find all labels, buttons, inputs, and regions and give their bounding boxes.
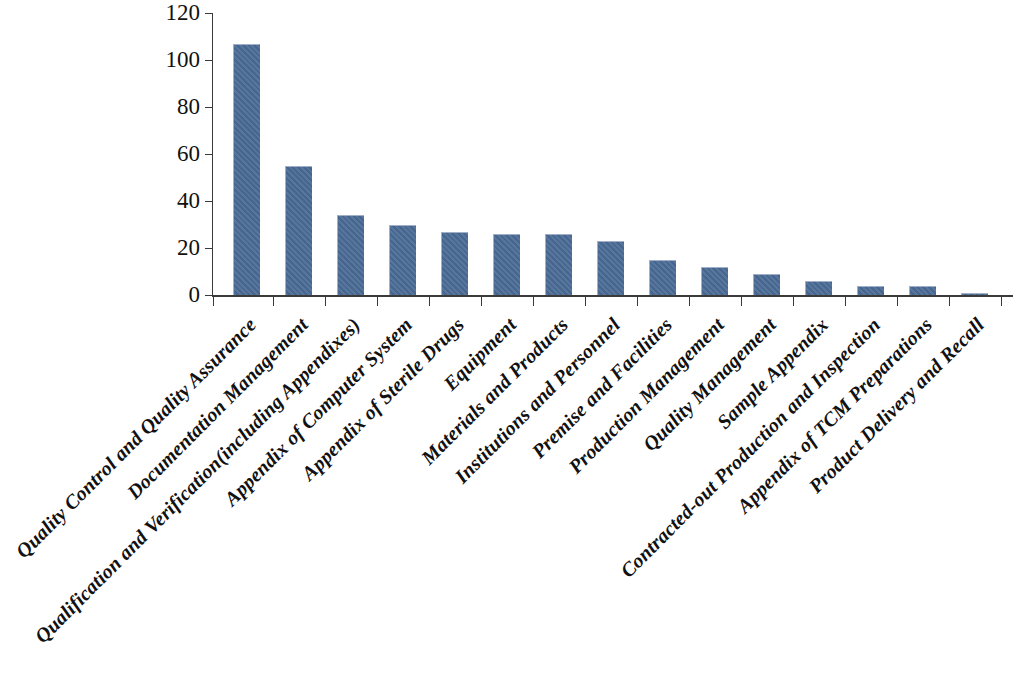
bar: [285, 166, 312, 295]
y-axis-tick: [205, 248, 213, 249]
y-axis-tick-label: 40: [120, 189, 200, 212]
bar: [389, 225, 416, 296]
bar: [753, 274, 780, 295]
x-axis-tick: [793, 297, 794, 306]
x-axis-tick: [845, 297, 846, 306]
bar: [857, 286, 884, 295]
bar: [649, 260, 676, 295]
y-axis-tick: [205, 107, 213, 108]
bar: [441, 232, 468, 295]
bar: [701, 267, 728, 295]
x-axis-tick: [897, 297, 898, 306]
x-axis-tick: [949, 297, 950, 306]
y-axis-tick-label: 20: [120, 236, 200, 259]
x-axis-tick: [377, 297, 378, 306]
bar: [233, 44, 260, 295]
bar: [493, 234, 520, 295]
bar: [545, 234, 572, 295]
bar-chart: 020406080100120 Quality Control and Qual…: [0, 0, 1018, 680]
x-axis-tick: [637, 297, 638, 306]
x-axis-tick: [533, 297, 534, 306]
y-axis-tick-label: 60: [120, 142, 200, 165]
bar: [337, 215, 364, 295]
x-axis-tick: [585, 297, 586, 306]
x-axis-tick: [689, 297, 690, 306]
x-axis-tick: [1001, 297, 1002, 306]
bar: [597, 241, 624, 295]
x-axis-tick: [481, 297, 482, 306]
y-axis-tick-label: 100: [120, 48, 200, 71]
x-axis-tick: [213, 297, 214, 306]
bar: [961, 293, 988, 295]
y-axis-tick: [205, 60, 213, 61]
x-axis-line: [212, 295, 1013, 297]
x-axis-tick: [273, 297, 274, 306]
x-axis-tick: [429, 297, 430, 306]
y-axis-tick: [205, 201, 213, 202]
x-axis-tick: [325, 297, 326, 306]
bar: [909, 286, 936, 295]
y-axis-tick: [205, 13, 213, 14]
bar: [805, 281, 832, 295]
y-axis-tick: [205, 154, 213, 155]
x-axis-tick: [741, 297, 742, 306]
y-axis-tick-label: 120: [120, 1, 200, 24]
y-axis-tick-label: 0: [120, 283, 200, 306]
y-axis-tick-label: 80: [120, 95, 200, 118]
